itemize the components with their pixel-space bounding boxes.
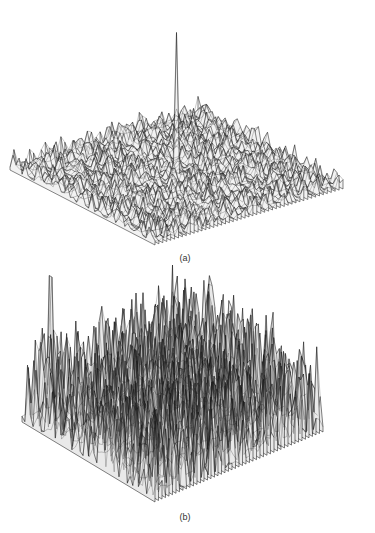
surface-plot-b xyxy=(0,0,375,533)
figure-panel-b: (b) xyxy=(0,0,375,533)
panel-label-b: (b) xyxy=(165,512,205,522)
